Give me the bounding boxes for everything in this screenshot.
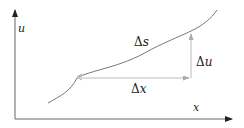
y-axis-label: u [18, 22, 25, 35]
arc-length-diagram: u x Δs Δu Δx [0, 0, 244, 128]
x-axis-label: x [193, 101, 200, 114]
delta-s-label: Δs [134, 35, 149, 49]
delta-x-label: Δx [131, 82, 147, 96]
delta-u-label: Δu [196, 55, 212, 69]
